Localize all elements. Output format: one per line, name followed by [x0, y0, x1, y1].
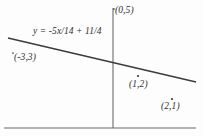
point-label-0-5: (0,5) — [115, 6, 134, 16]
data-point-marker-1-2 — [137, 75, 139, 77]
line-fit-diagram: y = -5x/14 + 11/4 (0,5) (-3,3) (1,2) (2,… — [0, 0, 203, 136]
point-label-2-1: (2,1) — [161, 102, 180, 112]
plot-canvas — [0, 0, 203, 136]
point-label-neg3-3: (-3,3) — [14, 53, 36, 63]
point-label-1-2: (1,2) — [129, 80, 148, 90]
equation-label: y = -5x/14 + 11/4 — [33, 27, 102, 37]
data-point-marker-2-1 — [171, 98, 173, 100]
regression-line — [8, 38, 196, 82]
